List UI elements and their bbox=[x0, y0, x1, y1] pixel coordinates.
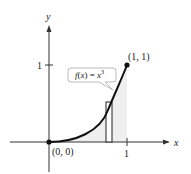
y-tick-label: 1 bbox=[37, 60, 42, 71]
x-axis-arrow-icon bbox=[163, 140, 170, 145]
origin-point-label: (0, 0) bbox=[52, 146, 74, 158]
function-label: f(x) = x3 bbox=[75, 69, 104, 80]
y-axis-label: y bbox=[45, 11, 51, 22]
x-tick-label: 1 bbox=[124, 148, 129, 159]
point-one-one bbox=[124, 62, 129, 67]
point-origin bbox=[46, 139, 51, 144]
endpoint-label: (1, 1) bbox=[128, 51, 150, 63]
integral-area-diagram: f(x) = x3 y x 1 1 (0, 0) (1, 1) bbox=[0, 0, 191, 174]
x-axis-label: x bbox=[173, 137, 179, 148]
y-axis-arrow-icon bbox=[47, 25, 52, 32]
